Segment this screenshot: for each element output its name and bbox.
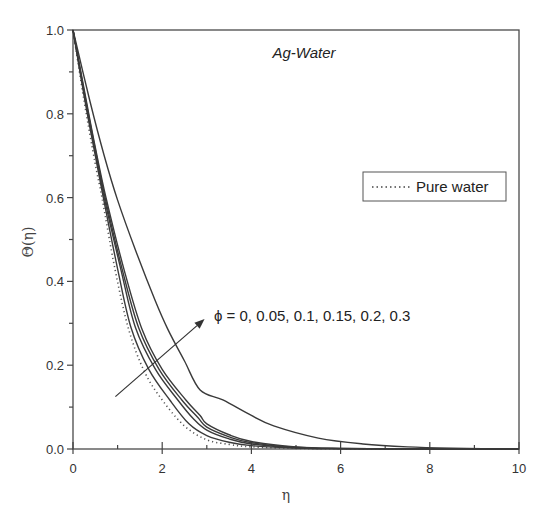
- x-tick-label: 0: [69, 461, 76, 476]
- curve-5: [73, 30, 519, 449]
- x-tick-label: 4: [248, 461, 255, 476]
- legend: Pure water: [363, 172, 506, 201]
- y-tick-label: 0.4: [46, 274, 64, 289]
- y-tick-label: 0.8: [46, 107, 64, 122]
- plot-frame: [73, 30, 519, 449]
- curve-1: [73, 30, 519, 449]
- curve-0: [73, 30, 519, 449]
- y-axis: 0.00.20.40.60.81.0: [46, 23, 73, 457]
- y-axis-title: Θ(η): [20, 227, 36, 258]
- chart: 0246810 0.00.20.40.60.81.0 Ag-Water η Θ(…: [0, 0, 545, 526]
- phi-label: ϕ = 0, 0.05, 0.1, 0.15, 0.2, 0.3: [214, 307, 410, 324]
- plot-title: Ag-Water: [271, 44, 336, 61]
- phi-annotation: ϕ = 0, 0.05, 0.1, 0.15, 0.2, 0.3: [115, 307, 410, 397]
- x-tick-label: 8: [426, 461, 433, 476]
- curve-4: [73, 30, 519, 449]
- y-tick-label: 0.6: [46, 191, 64, 206]
- curve-2: [73, 30, 519, 449]
- y-tick-label: 0.2: [46, 358, 64, 373]
- x-tick-label: 6: [337, 461, 344, 476]
- curve-3: [73, 30, 519, 449]
- legend-label: Pure water: [416, 178, 489, 195]
- y-tick-label: 0.0: [46, 442, 64, 457]
- x-tick-label: 2: [159, 461, 166, 476]
- curves: [73, 30, 519, 449]
- x-tick-label: 10: [512, 461, 526, 476]
- y-tick-label: 1.0: [46, 23, 64, 38]
- x-axis-title: η: [282, 487, 290, 503]
